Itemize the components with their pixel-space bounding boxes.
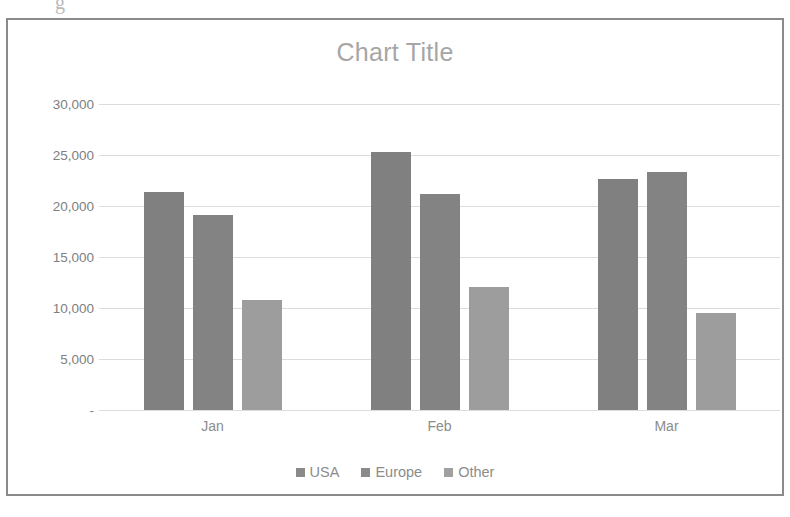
legend-item-europe[interactable]: Europe	[361, 464, 422, 480]
legend-swatch-icon	[296, 468, 305, 477]
y-axis-tick-label: 25,000	[53, 148, 94, 163]
legend-swatch-icon	[361, 468, 370, 477]
y-axis[interactable]: 30,00025,00020,00015,00010,0005,000-	[18, 104, 94, 410]
legend-label: USA	[310, 464, 340, 480]
scan-artifact-glyph: g	[55, 0, 66, 14]
chart-legend[interactable]: USAEuropeOther	[8, 464, 782, 480]
bar-usa-jan[interactable]	[144, 192, 184, 410]
y-axis-tick-label: 10,000	[53, 301, 94, 316]
legend-item-other[interactable]: Other	[444, 464, 494, 480]
bar-other-jan[interactable]	[242, 300, 282, 410]
bar-europe-feb[interactable]	[420, 194, 460, 410]
gridline	[99, 410, 780, 411]
x-axis[interactable]: JanFebMar	[99, 418, 780, 444]
y-axis-tick-label: -	[90, 403, 95, 418]
x-axis-tick-label-feb: Feb	[427, 418, 451, 434]
legend-label: Other	[458, 464, 494, 480]
legend-label: Europe	[375, 464, 422, 480]
x-axis-tick-label-mar: Mar	[654, 418, 678, 434]
x-axis-tick-label-jan: Jan	[201, 418, 224, 434]
bar-usa-mar[interactable]	[598, 179, 638, 410]
y-axis-tick-label: 5,000	[60, 352, 94, 367]
y-axis-tick-label: 15,000	[53, 250, 94, 265]
bar-europe-mar[interactable]	[647, 172, 687, 410]
chart-frame[interactable]: Chart Title 30,00025,00020,00015,00010,0…	[6, 18, 784, 496]
bar-europe-jan[interactable]	[193, 215, 233, 410]
y-axis-tick-label: 30,000	[53, 97, 94, 112]
legend-item-usa[interactable]: USA	[296, 464, 340, 480]
bar-other-mar[interactable]	[696, 313, 736, 410]
bar-usa-feb[interactable]	[371, 152, 411, 410]
chart-title[interactable]: Chart Title	[8, 38, 782, 67]
legend-swatch-icon	[444, 468, 453, 477]
y-axis-tick-label: 20,000	[53, 199, 94, 214]
bar-other-feb[interactable]	[469, 287, 509, 410]
bars-layer	[99, 104, 780, 410]
